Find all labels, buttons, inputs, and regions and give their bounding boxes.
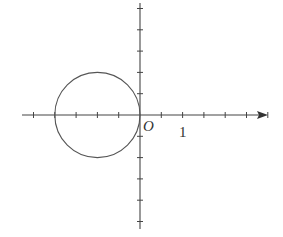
unit-label: 1 xyxy=(179,124,187,140)
coordinate-diagram: O 1 xyxy=(0,0,283,237)
origin-label: O xyxy=(143,118,154,134)
